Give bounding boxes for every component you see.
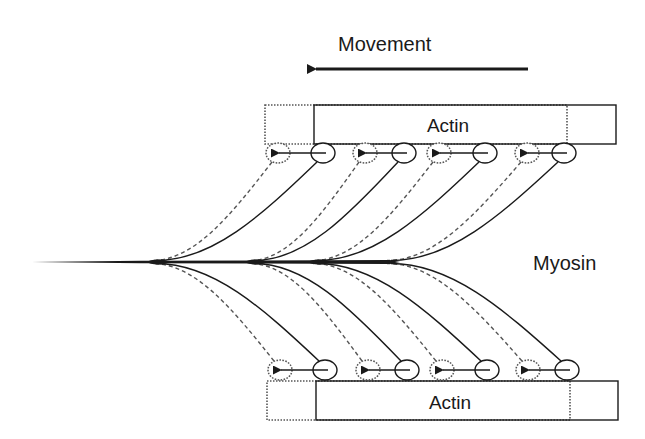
myosin-junction bbox=[148, 259, 168, 264]
actin-bottom-label: Actin bbox=[429, 392, 471, 413]
actin-before-outline bbox=[267, 381, 570, 420]
diagram-canvas: Movement Actin Actin Myosin bbox=[0, 0, 645, 439]
cross-bridge-after bbox=[156, 162, 317, 261]
myosin-tail-shape bbox=[32, 260, 400, 264]
cross-bridge-before bbox=[387, 162, 521, 261]
cross-bridge-after bbox=[317, 162, 479, 261]
myosin-junction bbox=[309, 259, 329, 264]
cross-bridge-after bbox=[156, 264, 319, 362]
cross-bridge-before bbox=[387, 264, 522, 362]
myosin-label: Myosin bbox=[533, 252, 596, 274]
movement-label: Movement bbox=[338, 33, 432, 55]
actin-myosin-diagram: Movement Actin Actin Myosin bbox=[0, 0, 645, 439]
cross-bridge-after bbox=[317, 264, 481, 362]
cross-bridge-after bbox=[254, 264, 401, 362]
myosin-junction bbox=[246, 259, 266, 264]
actin-top-label: Actin bbox=[427, 115, 469, 136]
cross-bridge-after bbox=[254, 162, 398, 261]
actin-before-outline bbox=[265, 105, 567, 144]
cross-bridge-after bbox=[391, 162, 558, 261]
myosin-thick-filament bbox=[32, 259, 400, 264]
